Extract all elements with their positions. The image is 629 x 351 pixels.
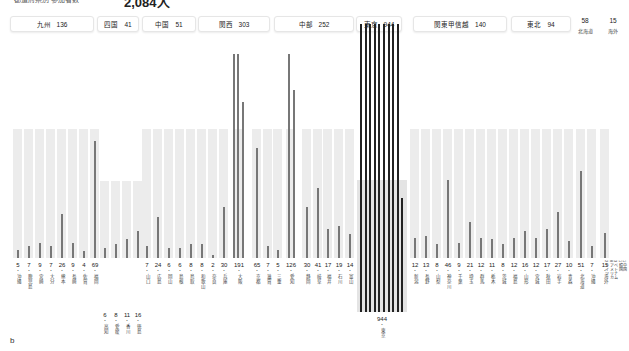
tokyo-bar: [388, 24, 390, 312]
region-name: 関東甲信越: [434, 19, 469, 29]
region-tab-0[interactable]: 九州136: [10, 16, 94, 32]
bar-name: 奈良: [211, 274, 216, 284]
bar: [223, 207, 225, 258]
bar: [447, 180, 449, 258]
bar-label: 30•兵庫: [217, 262, 231, 284]
bar-name: 宮城: [534, 274, 539, 284]
region-tab-6[interactable]: 関東甲信越140: [413, 16, 507, 32]
overseas-item: 1 中国: [622, 260, 627, 271]
bar: [458, 243, 460, 258]
bar-name: 大阪: [237, 274, 242, 284]
bar-background: [432, 129, 441, 258]
bar-name: 福井: [326, 274, 331, 284]
region-tab-4[interactable]: 中部252: [274, 16, 354, 32]
bar-name: 三重: [276, 274, 281, 284]
bar-name: 兵庫: [222, 274, 227, 284]
region-tab-3[interactable]: 関西303: [198, 16, 270, 32]
bar-background: [164, 129, 173, 258]
bar-name: 埼玉: [468, 274, 473, 284]
bar-name: 山梨: [435, 274, 440, 284]
bar: [557, 212, 559, 258]
bar-name: 滋賀: [266, 274, 271, 284]
bar-background: [175, 129, 184, 258]
bar-name: 大分: [49, 274, 54, 284]
region-name: 四国: [104, 19, 118, 29]
bar-name: 石川: [337, 274, 342, 284]
bar: [568, 241, 570, 258]
bar-label: 5•三重: [271, 262, 285, 284]
bar-name: 岐阜: [316, 274, 321, 284]
region-tab-7[interactable]: 東北94: [511, 16, 571, 32]
bar: [137, 231, 139, 258]
bar: [546, 229, 548, 258]
bar-background: [208, 129, 217, 258]
bar-background: [68, 129, 77, 258]
bar: [513, 238, 515, 258]
bar-name: 富山: [348, 274, 353, 284]
bar-background: [186, 129, 195, 258]
bar-name: 海外: [603, 274, 608, 284]
bar-background: [35, 129, 44, 258]
bar-name: 鳥取: [189, 274, 194, 284]
bar: [83, 251, 85, 258]
bar: [604, 233, 606, 259]
bar: [480, 238, 482, 258]
bar: [317, 188, 319, 258]
region-count: 136: [57, 21, 68, 28]
tokyo-bar: [360, 24, 362, 312]
region-tab-2[interactable]: 中国51: [142, 16, 196, 32]
header-total: 2,084人: [124, 0, 170, 11]
bar-name: 京都: [255, 274, 260, 284]
region-tab-1[interactable]: 四国41: [97, 16, 139, 32]
bar: [425, 236, 427, 258]
bar: [72, 243, 74, 258]
bar-name: 愛媛: [114, 324, 119, 334]
tokyo-bar: [397, 24, 399, 312]
tokyo-bar: [369, 24, 371, 312]
bar: [212, 255, 214, 258]
bar-label: 126•愛知: [284, 262, 298, 284]
bar-name: 長崎: [71, 274, 76, 284]
bar: [146, 246, 148, 258]
tokyo-label: 944•東京: [374, 316, 390, 338]
bar-name: 山口: [145, 274, 150, 284]
bar-name: 鹿児島: [27, 274, 32, 289]
bar-name: 岩手: [556, 274, 561, 284]
bar: [293, 90, 295, 258]
bar: [327, 229, 329, 258]
bar-name: 広島: [156, 274, 161, 284]
region-name: 東北: [527, 19, 541, 29]
bar-name: 新潟: [413, 274, 418, 284]
bar: [115, 244, 117, 258]
bar-background: [100, 181, 109, 258]
region-count: 51: [175, 21, 182, 28]
region-name: 中部: [299, 19, 313, 29]
footer-label: b: [10, 336, 14, 345]
bar-background: [24, 129, 33, 258]
bar: [233, 54, 235, 258]
bar-background: [46, 129, 55, 258]
bar-background: [498, 129, 507, 258]
bar: [288, 54, 290, 258]
bar: [50, 246, 52, 258]
region-label-0: 58北海道: [574, 17, 596, 34]
region-name: 九州: [37, 19, 51, 29]
bar: [179, 248, 181, 258]
bar: [157, 217, 159, 258]
bar-background: [564, 129, 573, 258]
bar-name: 徳島: [136, 324, 141, 334]
bar: [126, 239, 128, 258]
bar: [256, 148, 258, 259]
bar: [190, 244, 192, 258]
bar-name: 高知: [103, 324, 108, 334]
bar-name: 福岡: [93, 274, 98, 284]
bar: [524, 231, 526, 258]
bar-name: 沖縄: [590, 274, 595, 284]
bar: [338, 226, 340, 258]
region-count: 41: [124, 21, 131, 28]
bar-background: [263, 129, 272, 258]
bar-background: [587, 129, 596, 258]
bar-name: 香川: [125, 324, 130, 334]
bar: [39, 243, 41, 258]
bar-name: 北海道: [579, 274, 584, 289]
